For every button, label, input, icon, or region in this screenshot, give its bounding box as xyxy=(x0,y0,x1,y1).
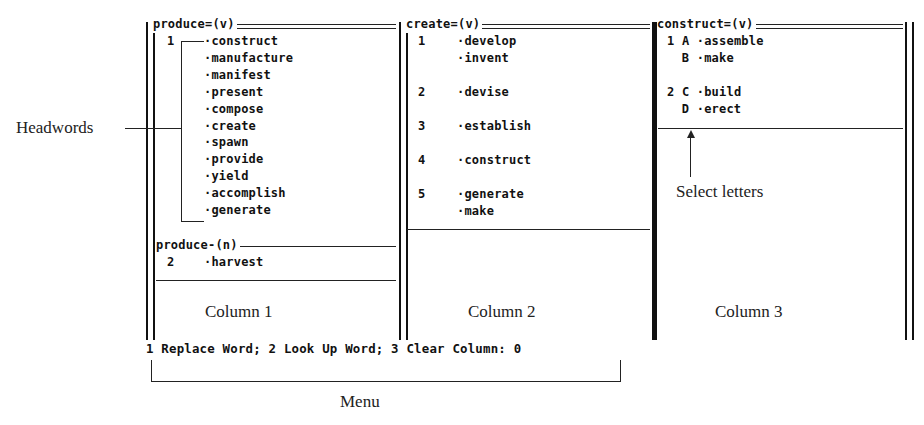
command-menu[interactable]: 1 Replace Word; 2 Look Up Word; 3 Clear … xyxy=(146,341,521,358)
select-letters-leader-line xyxy=(690,137,691,177)
synonym-item[interactable]: ·accomplish xyxy=(204,185,293,202)
column3-end-rule xyxy=(658,128,903,129)
sense-1-word-list: ·construct ·manufacture ·manifest ·prese… xyxy=(204,33,293,219)
arrow-up-icon xyxy=(687,130,695,138)
column1-heading-noun[interactable]: produce-(n) xyxy=(156,237,240,254)
column2-label: Column 2 xyxy=(468,302,536,322)
synonym-item[interactable]: ·devise xyxy=(457,84,509,101)
synonym-item[interactable]: ·construct xyxy=(204,33,293,50)
column1-heading-verb[interactable]: produce=(v) xyxy=(153,16,237,33)
sense-1-entries: 1 A ·assemble B ·make xyxy=(667,33,764,67)
sense-2-entries: 2 C ·build D ·erect xyxy=(667,84,741,118)
headwords-bracket xyxy=(181,41,204,222)
sense-number: 2 xyxy=(418,84,425,101)
lettered-synonym[interactable]: B ·make xyxy=(667,50,764,67)
synonym-item[interactable]: ·generate xyxy=(457,186,524,203)
column3-left-border xyxy=(652,22,657,340)
column2-left-border xyxy=(399,22,408,340)
synonym-item[interactable]: ·harvest xyxy=(204,254,263,271)
select-letter[interactable]: A xyxy=(682,34,689,48)
column1-left-border xyxy=(146,22,155,340)
menu-bracket xyxy=(151,360,621,382)
sense-number: 1 xyxy=(418,33,425,50)
select-letter[interactable]: D xyxy=(682,102,689,116)
select-letter[interactable]: B xyxy=(682,51,689,65)
synonym-item[interactable]: ·make xyxy=(457,203,524,220)
synonym-item[interactable]: ·manifest xyxy=(204,67,293,84)
sense-5-word-list: ·generate ·make xyxy=(457,186,524,220)
synonym-item[interactable]: ·establish xyxy=(457,118,531,135)
column2-heading[interactable]: create=(v) xyxy=(406,16,482,33)
sense-number: 4 xyxy=(418,152,425,169)
synonym-item[interactable]: ·develop xyxy=(457,33,516,50)
sense-1-word-list: ·develop ·invent xyxy=(457,33,516,67)
synonym-item[interactable]: ·create xyxy=(204,118,293,135)
select-letter[interactable]: C xyxy=(682,85,689,99)
headwords-label: Headwords xyxy=(16,118,93,138)
column1-label: Column 1 xyxy=(205,302,273,322)
sense-number: 3 xyxy=(418,118,425,135)
sense-number: 2 xyxy=(167,254,174,271)
column3-heading[interactable]: construct=(v) xyxy=(657,16,756,33)
column1-end-rule xyxy=(156,280,396,281)
lettered-synonym[interactable]: D ·erect xyxy=(667,101,741,118)
synonym-item[interactable]: ·construct xyxy=(457,152,531,169)
lettered-synonym[interactable]: 2 C ·build xyxy=(667,84,741,101)
synonym-item[interactable]: ·yield xyxy=(204,168,293,185)
menu-label: Menu xyxy=(340,392,380,412)
synonym-item[interactable]: ·manufacture xyxy=(204,50,293,67)
synonym-item[interactable]: ·present xyxy=(204,84,293,101)
synonym-item[interactable]: ·generate xyxy=(204,202,293,219)
select-letters-label: Select letters xyxy=(676,182,763,202)
sense-number: 1 xyxy=(167,33,174,50)
synonym-item[interactable]: ·invent xyxy=(457,50,516,67)
synonym-item[interactable]: ·compose xyxy=(204,101,293,118)
column3-label: Column 3 xyxy=(715,302,783,322)
synonym-item[interactable]: ·provide xyxy=(204,151,293,168)
column3-right-border xyxy=(905,22,914,340)
column2-end-rule xyxy=(407,229,650,230)
lettered-synonym[interactable]: 1 A ·assemble xyxy=(667,33,764,50)
headwords-leader-line xyxy=(125,128,182,129)
sense-number: 5 xyxy=(418,186,425,203)
synonym-item[interactable]: ·spawn xyxy=(204,134,293,151)
